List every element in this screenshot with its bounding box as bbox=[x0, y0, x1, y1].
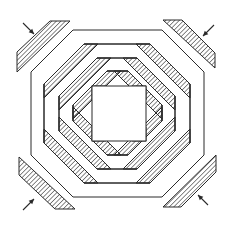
arrow-top-right bbox=[203, 25, 214, 36]
quilt-diagram bbox=[0, 0, 237, 225]
arrow-bottom-right bbox=[198, 195, 208, 205]
concentric-frames bbox=[31, 30, 204, 197]
center-square bbox=[92, 86, 146, 141]
arrow-top-left bbox=[23, 23, 34, 34]
arrow-bottom-left bbox=[23, 199, 34, 210]
